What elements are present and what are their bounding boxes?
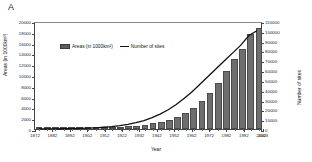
y-axis-left-tick-label: 8000 [21, 86, 31, 90]
y-axis-left-tick [32, 66, 35, 67]
y-axis-left-tick-label: 6000 [21, 96, 31, 100]
x-axis-minor-tick [47, 129, 48, 131]
x-axis-minor-tick [39, 129, 40, 131]
plot-area: 0200040006000800010000120001400016000180… [34, 22, 262, 130]
y-axis-right-tick [261, 62, 264, 63]
y-axis-right-tick-label: 80000 [265, 50, 277, 54]
x-axis-tick-label: 1992 [239, 134, 249, 138]
line-series-number-of-sites [35, 23, 261, 129]
x-axis-tick [263, 129, 264, 132]
figure-panel-a: A Areas (in 1000km²) Number of sites Yea… [0, 0, 312, 162]
y-axis-right-tick-label: 50000 [265, 80, 277, 84]
x-axis-minor-tick [186, 129, 187, 131]
y-axis-right-tick-label: 60000 [265, 70, 277, 74]
y-axis-left-tick [32, 109, 35, 110]
x-axis-tick [157, 129, 158, 132]
legend-line-swatch-icon [120, 46, 129, 47]
y-axis-left-tick [32, 88, 35, 89]
x-axis-minor-tick [145, 129, 146, 131]
y-axis-left-tick-label: 16000 [19, 42, 31, 46]
y-axis-left-tick-label: 20000 [19, 21, 31, 25]
x-axis-tick [70, 129, 71, 132]
x-axis-tick-label: 1952 [169, 134, 179, 138]
x-axis-minor-tick [178, 129, 179, 131]
y-axis-right-tick [261, 52, 264, 53]
x-axis-tick-label: 1912 [100, 134, 110, 138]
y-axis-right-tick-label: 30000 [265, 99, 277, 103]
y-axis-right-tick-label: 100000 [265, 31, 280, 35]
y-axis-left-tick [32, 23, 35, 24]
x-axis-tick [105, 129, 106, 132]
y-axis-right-tick-label: 40000 [265, 90, 277, 94]
x-axis-tick-label: 1982 [222, 134, 232, 138]
legend-label-number-of-sites: Number of sites [131, 44, 165, 49]
y-axis-left-tick-label: 4000 [21, 107, 31, 111]
y-axis-left-tick [32, 77, 35, 78]
x-axis-tick [174, 129, 175, 132]
y-axis-right-tick [261, 23, 264, 24]
y-axis-left-tick [32, 55, 35, 56]
x-axis-minor-tick [202, 129, 203, 131]
y-axis-left-tick [32, 99, 35, 100]
x-axis-minor-tick [169, 129, 170, 131]
y-axis-left-tick-label: 18000 [19, 32, 31, 36]
x-axis-minor-tick [137, 129, 138, 131]
x-axis-tick-label: 1902 [82, 134, 92, 138]
y-axis-left-tick [32, 45, 35, 46]
x-axis-tick-label: 1942 [152, 134, 162, 138]
x-axis-tick-label: 1972 [204, 134, 214, 138]
x-axis-minor-tick [129, 129, 130, 131]
x-axis-minor-tick [55, 129, 56, 131]
y-axis-right-tick-label: 20000 [265, 109, 277, 113]
panel-label: A [8, 2, 14, 12]
x-axis-minor-tick [96, 129, 97, 131]
y-axis-right-tick [261, 72, 264, 73]
y-axis-left-tick-label: 10000 [19, 75, 31, 79]
x-axis-tick-label: 1922 [117, 134, 127, 138]
y-axis-left-tick [32, 34, 35, 35]
x-axis-tick [52, 129, 53, 132]
x-axis-tick [244, 129, 245, 132]
x-axis-minor-tick [259, 129, 260, 131]
x-axis-minor-tick [161, 129, 162, 131]
x-axis-minor-tick [72, 129, 73, 131]
y-axis-right-tick [261, 43, 264, 44]
legend-item-areas: Areas (in 1000km²) [60, 44, 113, 49]
y-axis-right-tick-label: 110000 [265, 21, 279, 25]
y-axis-right-tick [261, 33, 264, 34]
x-axis-tick [87, 129, 88, 132]
x-axis-tick-label: 1872 [30, 134, 40, 138]
x-axis-minor-tick [251, 129, 252, 131]
x-axis-minor-tick [64, 129, 65, 131]
legend-label-areas: Areas (in 1000km²) [72, 44, 113, 49]
legend-bar-swatch-icon [60, 44, 70, 49]
y-axis-right-tick [261, 92, 264, 93]
x-axis-tick [139, 129, 140, 132]
x-axis-minor-tick [194, 129, 195, 131]
x-axis-minor-tick [218, 129, 219, 131]
x-axis-tick-label: 1932 [135, 134, 145, 138]
x-axis-minor-tick [210, 129, 211, 131]
x-axis-minor-tick [112, 129, 113, 131]
x-axis-minor-tick [153, 129, 154, 131]
y-axis-right-tick-label: 70000 [265, 60, 277, 64]
y-axis-right-tick [261, 111, 264, 112]
x-axis-minor-tick [80, 129, 81, 131]
y-axis-right-tick-label: 90000 [265, 40, 277, 44]
x-axis-minor-tick [235, 129, 236, 131]
y-axis-left-tick [32, 120, 35, 121]
x-axis-tick [226, 129, 227, 132]
y-axis-left-title: Areas (in 1000km²) [2, 33, 8, 76]
x-axis-tick-label: 1882 [48, 134, 58, 138]
y-axis-right-tick [261, 121, 264, 122]
y-axis-left-tick-label: 2000 [21, 118, 31, 122]
x-axis-title: Year [0, 146, 312, 152]
x-axis-tick [192, 129, 193, 132]
x-axis-tick [35, 129, 36, 132]
x-axis-tick-label: 2003 [258, 134, 268, 138]
y-axis-right-title: Number of sites [296, 70, 302, 105]
x-axis-tick-label: 1892 [65, 134, 75, 138]
chart-legend: Areas (in 1000km²) Number of sites [60, 44, 164, 49]
y-axis-left-tick-label: 12000 [19, 64, 31, 68]
x-axis-tick [122, 129, 123, 132]
